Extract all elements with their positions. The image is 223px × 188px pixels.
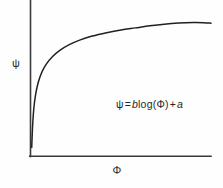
equation-equals: = bbox=[124, 98, 132, 110]
x-axis-label: Φ bbox=[107, 165, 127, 176]
data-curve bbox=[32, 23, 211, 148]
figure-container: ψ Φ ψ=blog(Φ)+a bbox=[0, 0, 223, 188]
equation-plus: + bbox=[169, 98, 177, 110]
equation-annotation: ψ=blog(Φ)+a bbox=[116, 98, 183, 110]
equation-log: log bbox=[138, 98, 153, 110]
equation-psi: ψ bbox=[116, 98, 124, 110]
y-axis-label: ψ bbox=[9, 58, 23, 69]
plot-area bbox=[0, 0, 223, 188]
equation-intercept-variable: a bbox=[177, 98, 183, 110]
equation-phi: Φ bbox=[156, 98, 165, 110]
